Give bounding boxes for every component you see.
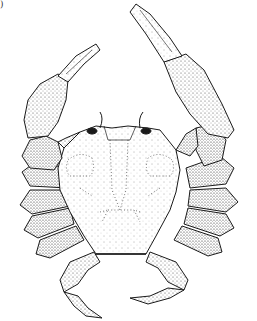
left-rear-leg <box>60 252 100 292</box>
crab-figure: ) <box>0 0 257 321</box>
left-rear-dactyl <box>64 292 102 318</box>
left-merus <box>22 136 62 170</box>
left-dactyl <box>58 44 100 82</box>
left-eye <box>87 128 97 134</box>
right-dactyl <box>130 4 182 62</box>
right-eye <box>141 128 151 134</box>
right-rear-leg <box>146 252 188 290</box>
right-propodus <box>164 54 234 138</box>
right-antenna <box>139 112 143 128</box>
left-propodus <box>24 74 68 138</box>
crab-illustration <box>0 0 257 321</box>
left-antenna <box>100 112 102 128</box>
right-rear-dactyl <box>130 288 184 304</box>
right-walking-legs <box>174 156 238 256</box>
